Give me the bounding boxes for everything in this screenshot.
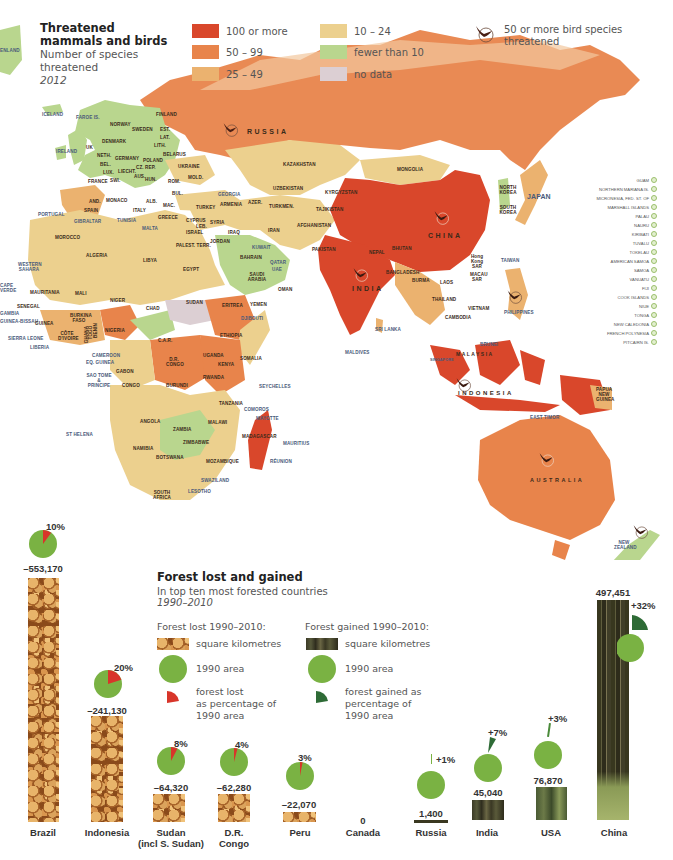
bar-brazil [28, 578, 59, 822]
label-thailand: THAILAND [432, 297, 456, 302]
pie-drcongo [220, 748, 248, 776]
label-rwanda: RWANDA [203, 375, 224, 380]
pie-russia [417, 771, 445, 799]
legend-label: 50 – 99 [226, 47, 263, 58]
pie-sudan [157, 747, 185, 775]
label-kenya: KENYA [218, 362, 234, 367]
pie-usa [534, 741, 562, 769]
country-drcongo-line1: D.R. [212, 827, 256, 838]
label-nkorea: NORTH KOREA [499, 185, 517, 195]
label-mongolia: MONGOLIA [397, 167, 423, 172]
label-neth: NETH. [97, 153, 111, 158]
island-dot-icon [651, 186, 657, 192]
label-bahrain: BAHRAIN [240, 255, 262, 260]
label-guinea: GUINEA [35, 321, 53, 326]
label-seychelles: SEYCHELLES [259, 384, 291, 389]
label-hun: HUN. [145, 177, 157, 182]
bar-india [472, 800, 504, 820]
island-label: MICRONESIA, FED. ST. OF [596, 196, 649, 201]
label-kazakhstan: KAZAKHSTAN [283, 162, 316, 167]
label-afghanistan: AFGHANISTAN [297, 223, 331, 228]
label-sweden: SWEDEN [132, 127, 153, 132]
legend-item-25-49: 25 – 49 [192, 67, 263, 81]
value-russia: 1,400 [410, 808, 452, 819]
label-mozambique: MOZAMBIQUE [206, 459, 239, 464]
label-niger: NIGER [110, 298, 125, 303]
label-gibraltar: GIBRALTAR [74, 219, 101, 224]
label-reunion: RÉUNION [270, 459, 292, 464]
pct-usa: +3% [548, 713, 567, 724]
label-benin: BENIN [93, 323, 98, 338]
bar-peru [283, 812, 316, 822]
label-faroe: FAROE IS. [76, 115, 100, 120]
map-year: 2012 [40, 74, 180, 86]
label-kyrgyzstan: KYRGYZSTAN [325, 190, 357, 195]
bar-usa [536, 787, 567, 820]
label-mali: MALI [75, 291, 87, 296]
label-malaysia: MALAYSIA [456, 351, 494, 357]
pct-china: +32% [631, 600, 656, 611]
label-congo: CONGO [122, 383, 140, 388]
pie-china [617, 612, 657, 662]
label-tajikistan: TAJIKISTAN [316, 207, 343, 212]
gained-area-label: 1990 area [345, 663, 393, 675]
label-azer: AZER. [248, 200, 262, 205]
label-wsahara: WESTERN SAHARA [18, 262, 40, 272]
country-indonesia: Indonesia [77, 827, 137, 838]
label-uzbekistan: UZBEKISTAN [273, 186, 303, 191]
label-guineabissau: GUINEA-BISSAU [0, 319, 38, 324]
logs-swatch-icon [157, 638, 189, 650]
legend-item-fewer-than-10: fewer than 10 [320, 45, 424, 59]
island-label: TUVALU [633, 241, 649, 246]
label-qatar: QATAR [270, 260, 286, 265]
bird-icon-new-zealand [632, 522, 650, 540]
label-bangladesh: BANGLADESH [386, 270, 419, 275]
value-drcongo: –62,280 [211, 782, 257, 793]
label-monaco: MONACO [106, 198, 128, 203]
label-lux: LUX. [103, 170, 114, 175]
label-czrep: CZ. REP. [136, 165, 156, 170]
island-dot-icon [651, 321, 657, 327]
island-dot-icon [651, 204, 657, 210]
label-sierraleone: SIERRA LEONE [8, 336, 44, 341]
legend-swatch [320, 67, 347, 81]
island-label: TOKELAU [630, 250, 649, 255]
label-palest: PALEST. TERR. [176, 243, 211, 248]
trees-swatch-icon [306, 638, 338, 650]
island-label: FRENCH POLYNESIA [607, 331, 649, 336]
forest-gained-heading: Forest gained 1990–2010: [305, 621, 429, 632]
label-germany: GERMANY [115, 156, 139, 161]
value-brazil: –553,170 [20, 563, 66, 574]
label-macau: MACAU SAR [470, 272, 484, 282]
bar-sudan [153, 794, 185, 822]
legend-label: 100 or more [226, 26, 288, 37]
country-china: China [591, 827, 637, 838]
label-italy: ITALY [133, 208, 146, 213]
label-saotome: SAO TOME & PRINCIPE [86, 373, 112, 388]
label-maldives: MALDIVES [345, 350, 370, 355]
label-newzealand: NEW ZEALAND [614, 540, 634, 550]
island-label: TONGA [634, 313, 649, 318]
forest-lost-heading: Forest lost 1990–2010: [157, 621, 266, 632]
label-georgia: GEORGIA [218, 192, 240, 197]
label-france: FRANCE [88, 179, 108, 184]
label-cotedivoire: CÔTE D'IVOIRE [58, 331, 76, 341]
label-nepal: NEPAL [369, 250, 385, 255]
label-belarus: BELARUS [163, 152, 186, 157]
lost-sqkm-label: square kilometres [196, 638, 281, 650]
label-bhutan: BHUTAN [392, 246, 412, 251]
country-brazil: Brazil [13, 827, 73, 838]
label-capeverde: CAPE VERDE [0, 283, 14, 293]
label-car: C.A.R. [158, 338, 172, 343]
label-gabon: GABON [116, 369, 134, 374]
label-morocco: MOROCCO [55, 235, 80, 240]
bird-icon-indonesia [455, 375, 473, 393]
label-rom: ROM. [168, 179, 180, 184]
value-china: 497,451 [590, 587, 636, 598]
island-dot-icon [651, 213, 657, 219]
gained-pct-line3: 1990 area [345, 710, 422, 722]
gain-wedge-russia [431, 754, 432, 764]
label-ukraine: UKRAINE [178, 164, 200, 169]
label-swaziland: SWAZILAND [201, 478, 229, 483]
label-hongkong: Hong Kong SAR [467, 254, 487, 269]
